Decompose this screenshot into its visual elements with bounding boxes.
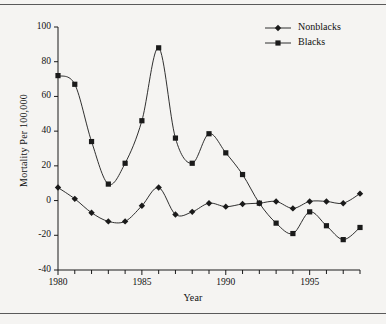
square-icon xyxy=(89,139,94,144)
square-icon xyxy=(106,181,111,186)
square-icon xyxy=(206,131,211,136)
diamond-icon xyxy=(340,200,346,206)
diamond-icon xyxy=(357,190,363,196)
y-tick-label: 0 xyxy=(0,195,51,205)
diamond-icon xyxy=(306,198,312,204)
line-chart-plot xyxy=(0,0,386,324)
square-icon xyxy=(240,172,245,177)
square-icon xyxy=(324,223,329,228)
x-tick-label: 1985 xyxy=(120,277,164,287)
square-icon xyxy=(173,135,178,140)
square-icon xyxy=(307,209,312,214)
square-icon xyxy=(223,150,228,155)
diamond-icon xyxy=(105,218,111,224)
diamond-icon xyxy=(275,25,281,31)
y-tick-label: 80 xyxy=(0,56,51,66)
y-tick-label: 40 xyxy=(0,125,51,135)
square-icon xyxy=(72,82,77,87)
y-tick-label: 60 xyxy=(0,90,51,100)
axis-spines xyxy=(58,27,360,270)
square-icon xyxy=(257,201,262,206)
diamond-icon xyxy=(55,184,61,190)
x-tick-label: 1980 xyxy=(36,277,80,287)
y-tick-label: 100 xyxy=(0,21,51,31)
diamond-icon xyxy=(323,198,329,204)
square-icon xyxy=(274,221,279,226)
square-icon xyxy=(290,231,295,236)
y-tick-label: -40 xyxy=(0,264,51,274)
diamond-icon xyxy=(189,209,195,215)
square-icon xyxy=(156,45,161,50)
y-tick-label: -20 xyxy=(0,229,51,239)
series-nonblacks xyxy=(55,184,363,224)
diamond-icon xyxy=(239,201,245,207)
x-tick-label: 1995 xyxy=(288,277,332,287)
diamond-icon xyxy=(273,198,279,204)
square-icon xyxy=(190,161,195,166)
series-line xyxy=(58,48,360,240)
square-icon xyxy=(139,118,144,123)
x-tick-label: 1990 xyxy=(204,277,248,287)
square-icon xyxy=(55,73,60,78)
diamond-icon xyxy=(206,200,212,206)
diamond-icon xyxy=(122,218,128,224)
legend-label: Blacks xyxy=(298,36,325,47)
diamond-icon xyxy=(223,203,229,209)
figure-container: Mortality Per 100,000 Year -40-200204060… xyxy=(0,0,386,324)
square-icon xyxy=(341,237,346,242)
square-icon xyxy=(275,40,280,45)
y-tick-label: 20 xyxy=(0,160,51,170)
series-blacks xyxy=(55,45,362,242)
legend-label: Nonblacks xyxy=(298,21,341,32)
diamond-icon xyxy=(88,210,94,216)
square-icon xyxy=(123,161,128,166)
square-icon xyxy=(357,225,362,230)
x-axis-label: Year xyxy=(0,292,386,303)
diamond-icon xyxy=(290,205,296,211)
